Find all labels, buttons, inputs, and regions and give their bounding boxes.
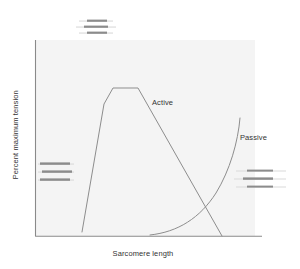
- y-axis-label: Percent maximum tension: [12, 75, 20, 195]
- passive-curve-label: Passive: [240, 134, 267, 142]
- plot-area-background: [36, 40, 255, 236]
- active-curve-label: Active: [152, 99, 173, 107]
- sarcomere-inset-top: [76, 20, 116, 34]
- length-tension-figure: Percent maximum tension Sarcomere length…: [0, 0, 300, 269]
- x-axis-label: Sarcomere length: [78, 250, 208, 258]
